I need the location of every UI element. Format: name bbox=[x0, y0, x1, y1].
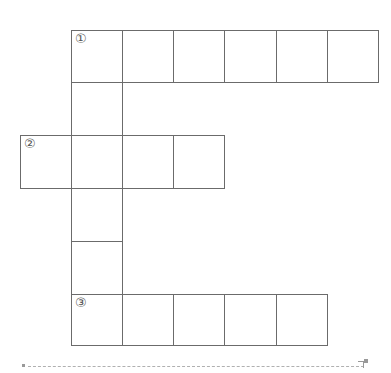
answer-cell[interactable] bbox=[276, 30, 328, 83]
answer-cell[interactable] bbox=[173, 135, 225, 189]
answer-cell[interactable] bbox=[122, 135, 174, 189]
answer-cell[interactable] bbox=[224, 30, 277, 83]
answer-cell[interactable]: ① bbox=[71, 30, 123, 83]
answer-cell[interactable] bbox=[71, 188, 123, 242]
divider-marker-right bbox=[364, 359, 368, 363]
answer-cell[interactable]: ③ bbox=[71, 294, 123, 346]
divider-line bbox=[28, 366, 364, 367]
clue-number: ② bbox=[24, 137, 36, 150]
answer-cell[interactable] bbox=[173, 30, 225, 83]
clue-number: ③ bbox=[75, 296, 87, 309]
answer-cell[interactable] bbox=[122, 294, 174, 346]
answer-cell[interactable] bbox=[71, 135, 123, 189]
answer-cell[interactable] bbox=[327, 30, 379, 83]
divider-marker-left bbox=[22, 364, 25, 367]
answer-cell[interactable] bbox=[71, 82, 123, 136]
answer-cell[interactable] bbox=[122, 30, 174, 83]
answer-cell[interactable] bbox=[71, 241, 123, 295]
answer-cell[interactable] bbox=[224, 294, 277, 346]
clue-number: ① bbox=[75, 32, 87, 45]
answer-cell[interactable]: ② bbox=[20, 135, 72, 189]
answer-cell[interactable] bbox=[276, 294, 328, 346]
answer-cell[interactable] bbox=[173, 294, 225, 346]
